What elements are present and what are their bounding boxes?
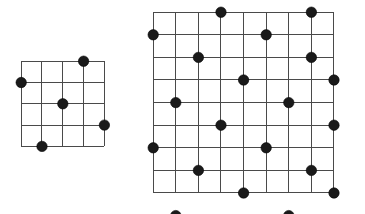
lattice-point-dot — [238, 75, 248, 85]
lattice-point-dot — [170, 97, 180, 107]
lattice-point-dot — [283, 97, 293, 107]
lattice-figure — [0, 0, 365, 214]
lattice-point-dot — [329, 188, 339, 198]
lattice-point-dot — [283, 210, 293, 214]
left-grid-panel — [14, 54, 112, 154]
lattice-point-dot — [99, 120, 109, 130]
left-grid-svg — [14, 54, 112, 154]
lattice-point-dot — [329, 120, 339, 130]
lattice-point-dot — [261, 142, 271, 152]
lattice-point-dot — [306, 165, 316, 175]
right-grid-panel — [146, 5, 341, 200]
lattice-point-dot — [16, 77, 26, 87]
lattice-point-dot — [306, 7, 316, 17]
lattice-point-dot — [329, 75, 339, 85]
lattice-point-dot — [148, 142, 158, 152]
lattice-point-dot — [238, 188, 248, 198]
lattice-point-dot — [216, 7, 226, 17]
lattice-point-dot — [193, 52, 203, 62]
lattice-point-dot — [57, 98, 67, 108]
lattice-point-dot — [216, 120, 226, 130]
lattice-point-dot — [306, 52, 316, 62]
lattice-point-dot — [261, 29, 271, 39]
right-grid-svg — [146, 5, 341, 200]
lattice-point-dot — [193, 165, 203, 175]
lattice-point-dot — [170, 210, 180, 214]
lattice-point-dot — [148, 29, 158, 39]
lattice-point-dot — [78, 56, 88, 66]
lattice-point-dot — [37, 141, 47, 151]
